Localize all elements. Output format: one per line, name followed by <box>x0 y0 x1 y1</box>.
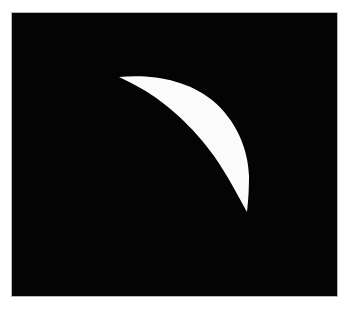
crescent-shape-svg <box>12 13 337 296</box>
image-viewer: White crescent on black background <box>0 0 350 311</box>
image-background <box>12 13 337 296</box>
binary-crescent-image <box>12 13 337 296</box>
